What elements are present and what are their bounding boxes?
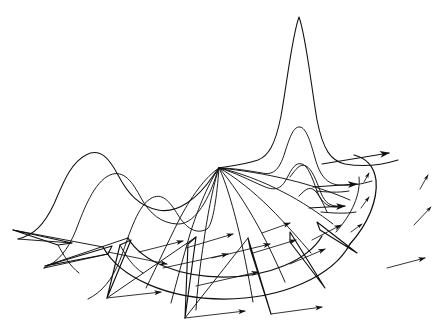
figure-background — [0, 0, 447, 324]
figure-canvas — [0, 0, 447, 324]
figure-root — [0, 0, 447, 324]
